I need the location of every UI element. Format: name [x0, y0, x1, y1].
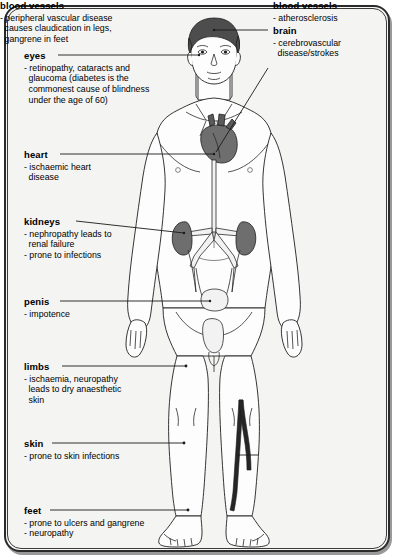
annotation-limbs-heading: limbs: [24, 361, 121, 373]
body-figure: [126, 18, 302, 547]
annotation-heart-line-1: - ischaemic heart: [24, 162, 91, 173]
annotation-feet: feet - prone to ulcers and gangrene - ne…: [24, 505, 144, 539]
annotation-skin-heading: skin: [24, 438, 119, 450]
annotation-blood-vessels-lower-heading: blood vessels: [0, 0, 112, 12]
annotation-eyes-line-2: glaucoma (diabetes is the: [24, 73, 149, 84]
annotation-eyes-line-4: under the age of 60): [24, 95, 149, 106]
annotation-penis-heading: penis: [24, 296, 70, 308]
annotation-limbs-line-1: - ischaemia, neuropathy: [24, 374, 121, 385]
annotation-blood-vessels-lower-line-3: gangrene in feet: [0, 34, 112, 45]
annotation-kidneys-heading: kidneys: [24, 216, 112, 228]
diagram-canvas: .sk { fill:#fdfdfd; stroke:#1f1f1f; stro…: [0, 0, 397, 559]
annotation-eyes-line-3: commonest cause of blindness: [24, 84, 149, 95]
annotation-blood-vessels-lower-line-1: - peripheral vascular disease: [0, 13, 112, 24]
annotation-blood-vessels-upper-heading: blood vessels: [273, 0, 338, 12]
annotation-kidneys-line-2: renal failure: [24, 239, 112, 250]
annotation-brain-heading: brain: [273, 25, 341, 37]
annotation-heart: heart - ischaemic heart disease: [24, 149, 91, 183]
annotation-feet-line-1: - prone to ulcers and gangrene: [24, 518, 144, 529]
annotation-brain: brain - cerebrovascular disease/strokes: [273, 25, 341, 59]
annotation-eyes-heading: eyes: [24, 50, 149, 62]
annotation-brain-line-2: disease/strokes: [273, 48, 341, 59]
annotation-heart-line-2: disease: [24, 172, 91, 183]
annotation-limbs-line-3: skin: [24, 395, 121, 406]
annotation-penis: penis - impotence: [24, 296, 70, 319]
annotation-limbs-line-2: leads to dry anaesthetic: [24, 384, 121, 395]
annotation-blood-vessels-upper-line-1: - atherosclerosis: [273, 13, 338, 24]
annotation-eyes-line-1: - retinopathy, cataracts and: [24, 63, 149, 74]
annotation-feet-heading: feet: [24, 505, 144, 517]
annotation-kidneys: kidneys - nephropathy leads to renal fai…: [24, 216, 112, 261]
annotation-blood-vessels-lower-line-2: causes claudication in legs,: [0, 23, 112, 34]
annotation-feet-line-2: - neuropathy: [24, 528, 144, 539]
annotation-kidneys-line-1: - nephropathy leads to: [24, 229, 112, 240]
annotation-blood-vessels-upper: blood vessels - atherosclerosis: [273, 0, 338, 23]
annotation-heart-heading: heart: [24, 149, 91, 161]
annotation-kidneys-line-3: - prone to infections: [24, 250, 112, 261]
annotation-blood-vessels-lower: blood vessels - peripheral vascular dise…: [0, 0, 112, 45]
annotation-penis-line-1: - impotence: [24, 309, 70, 320]
annotation-limbs: limbs - ischaemia, neuropathy leads to d…: [24, 361, 121, 406]
annotation-brain-line-1: - cerebrovascular: [273, 38, 341, 49]
annotation-skin: skin - prone to skin infections: [24, 438, 119, 461]
annotation-skin-line-1: - prone to skin infections: [24, 451, 119, 462]
annotation-eyes: eyes - retinopathy, cataracts and glauco…: [24, 50, 149, 105]
